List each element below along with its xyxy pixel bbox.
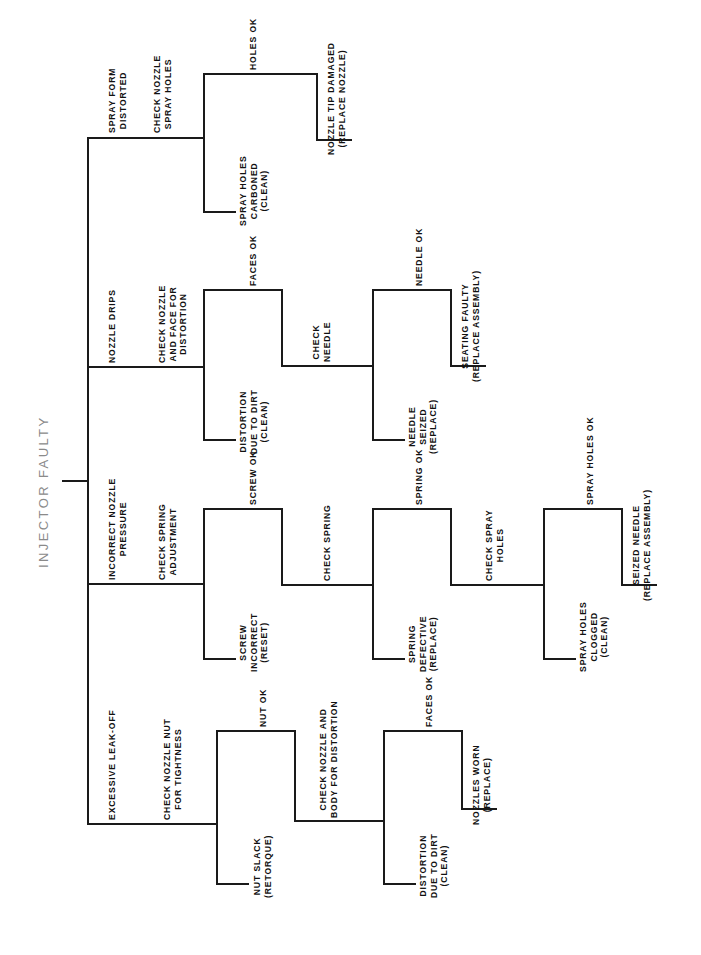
- branch3-leaf-drop: [621, 508, 623, 586]
- branch4-leaf-label: NOZZLES WORN (REPLACE): [471, 745, 492, 826]
- branch2-outcome-bad-label: DISTORTION DUE TO DIRT (CLEAN): [238, 389, 270, 454]
- branch2-outcome2-ok-label: NEEDLE OK: [414, 228, 425, 286]
- branch2-outcome-ok-label: FACES OK: [248, 235, 259, 286]
- branch3-check3-drop: [450, 508, 452, 586]
- branch3-leaf-label: SEIZED NEEDLE (REPLACE ASSEMBLY): [631, 489, 652, 601]
- branch3-lower-arm: [203, 658, 236, 660]
- branch3-check-label: CHECK SPRING ADJUSTMENT: [157, 503, 178, 580]
- branch2-leaf-label: SEATING FAULTY (REPLACE ASSEMBLY): [460, 270, 481, 382]
- branch2-bracket: [203, 289, 205, 441]
- branch4-leaf-drop: [461, 730, 463, 810]
- branch4-bracket2: [383, 730, 385, 885]
- branch2-check2-drop: [281, 289, 283, 367]
- branch3-stem: [87, 583, 204, 585]
- branch3-bracket3-upper-arm: [543, 508, 623, 510]
- branch1-check-label: CHECK NOZZLE SPRAY HOLES: [152, 55, 173, 133]
- branch4-upper-arm: [216, 730, 296, 732]
- branch1-outcome-bad-label: SPRAY HOLES CARBONED (CLEAN): [238, 155, 270, 226]
- branch4-outcome-bad-label: NUT SLACK (RETORQUE): [252, 835, 273, 898]
- branch3-check3-label: CHECK SPRAY HOLES: [484, 509, 505, 581]
- branch3-check2-drop: [281, 508, 283, 586]
- branch3-outcome-bad-label: SCREW INCORRECT (RESET): [238, 613, 270, 672]
- branch2-bracket2: [372, 289, 374, 441]
- root-label: INJECTOR FAULTY: [36, 415, 51, 568]
- branch3-check2-stem: [281, 584, 373, 586]
- branch3-check2-label: CHECK SPRING: [322, 504, 333, 581]
- branch3-bracket: [203, 508, 205, 660]
- branch3-check3-stem: [450, 584, 544, 586]
- branch4-bracket2-upper-arm: [383, 730, 463, 732]
- branch2-symptom-label: NOZZLE DRIPS: [107, 289, 118, 363]
- root-stub: [62, 480, 88, 482]
- branch1-lower-arm: [203, 211, 236, 213]
- branch3-bracket3-lower-arm: [543, 658, 576, 660]
- branch2-upper-arm: [203, 289, 283, 291]
- branch4-check2-stem: [294, 820, 384, 822]
- branch4-symptom-label: EXCESSIVE LEAK-OFF: [107, 709, 118, 820]
- branch3-outcome2-bad-label: SPRING DEFECTIVE (REPLACE): [407, 616, 439, 672]
- branch3-outcome-ok-label: SCREW OK: [248, 451, 259, 505]
- branch3-outcome3-ok-label: SPRAY HOLES OK: [585, 416, 596, 505]
- branch3-outcome3-bad-label: SPRAY HOLES CLOGGED (CLEAN): [578, 601, 610, 672]
- branch4-outcome2-bad-label: DISTORTION DUE TO DIRT (CLEAN): [418, 833, 450, 898]
- branch4-check-label: CHECK NOZZLE NUT FOR TIGHTNESS: [162, 718, 183, 820]
- branch4-stem: [87, 823, 217, 825]
- branch4-bracket: [216, 730, 218, 885]
- branch3-outcome2-ok-label: SPRING OK: [414, 449, 425, 505]
- branch2-check2-label: CHECK NEEDLE: [311, 322, 332, 362]
- branch2-bracket2-upper-arm: [372, 289, 452, 291]
- branch3-symptom-label: INCORRECT NOZZLE PRESSURE: [107, 478, 128, 580]
- branch3-bracket2-upper-arm: [372, 508, 452, 510]
- branch3-bracket3: [543, 508, 545, 660]
- branch3-upper-arm: [203, 508, 283, 510]
- branch2-outcome2-bad-label: NEEDLE SEIZED (REPLACE): [407, 399, 439, 454]
- branch4-outcome2-ok-label: FACES OK: [424, 676, 435, 727]
- branch1-bracket: [203, 73, 205, 213]
- branch4-check2-drop: [294, 730, 296, 822]
- branch1-symptom-label: SPRAY FORM DISTORTED: [107, 68, 128, 133]
- branch4-lower-arm: [216, 883, 249, 885]
- branch1-leaf-label: NOZZLE TIP DAMAGED (REPLACE NOZZLE): [326, 42, 347, 155]
- branch4-bracket2-lower-arm: [383, 883, 416, 885]
- branch2-check2-stem: [281, 365, 373, 367]
- branch2-bracket2-lower-arm: [372, 439, 405, 441]
- fault-tree-diagram: INJECTOR FAULTY SPRAY FORM DISTORTED CHE…: [0, 0, 701, 955]
- branch1-outcome-ok-label: HOLES OK: [248, 18, 259, 70]
- branch3-bracket2: [372, 508, 374, 660]
- branch4-outcome-ok-label: NUT OK: [258, 689, 269, 727]
- branch2-leaf-drop: [450, 289, 452, 367]
- branch2-lower-arm: [203, 439, 236, 441]
- branch4-check2-label: CHECK NOZZLE AND BODY FOR DISTORTION: [318, 700, 339, 818]
- branch1-stem: [87, 137, 204, 139]
- branch1-leaf-drop: [316, 73, 318, 141]
- branch2-stem: [87, 366, 204, 368]
- branch3-bracket2-lower-arm: [372, 658, 405, 660]
- branch1-upper-arm: [203, 73, 318, 75]
- branch2-check-label: CHECK NOZZLE AND FACE FOR DISTORTION: [157, 285, 189, 363]
